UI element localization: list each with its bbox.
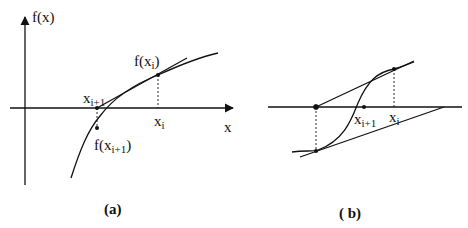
label-b-xi1: xi+1: [354, 111, 376, 129]
y-axis-label: f(x): [32, 9, 55, 26]
caption-b: ( b): [339, 205, 361, 222]
panel-a: f(x) x f(xi) xi+1 xi f(xi+1) (a): [10, 9, 233, 218]
point-middle: [362, 105, 366, 109]
label-b-xi: xi: [389, 109, 400, 127]
point-lower: [314, 149, 318, 153]
point-left-open: [314, 105, 319, 110]
panel-b: xi+1 xi ( b): [268, 61, 462, 222]
function-curve: [71, 53, 218, 178]
label-xi1: xi+1: [83, 90, 105, 108]
point-xi: [156, 73, 160, 77]
newton-method-diagram: f(x) x f(xi) xi+1 xi f(xi+1) (a): [0, 0, 468, 228]
point-f-xi1: [95, 126, 99, 130]
label-xi: xi: [154, 113, 165, 131]
tangent-lower: [300, 107, 444, 157]
label-f-xi1: f(xi+1): [94, 137, 131, 155]
label-f-xi: f(xi): [134, 53, 160, 71]
x-axis-label: x: [224, 119, 232, 135]
tangent-upper: [316, 61, 414, 107]
point-upper: [392, 67, 396, 71]
caption-a: (a): [104, 201, 122, 218]
